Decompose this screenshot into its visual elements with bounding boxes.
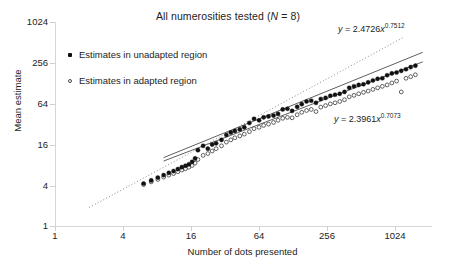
legend-item-adapted: Estimates in adapted region [68,75,197,86]
legend-label-unadapted: Estimates in unadapted region [79,49,207,60]
filled-square-marker-icon [68,53,72,57]
open-circle-marker-icon [68,79,72,83]
plot-canvas [0,0,456,276]
eq-unadapted-exponent: 0.7512 [385,22,405,29]
equation-adapted: y = 2.3961x0.7073 [334,112,401,124]
eq-adapted-exponent: 0.7073 [381,112,401,119]
chart-figure: All numerosities tested (N = 8) Mean est… [0,0,456,276]
legend-item-unadapted: Estimates in unadapted region [68,49,207,60]
data-points-adapted [142,73,418,187]
eq-unadapted-coefficient: 2.4726 [353,24,381,34]
legend-label-adapted: Estimates in adapted region [79,75,197,86]
equation-unadapted: y = 2.4726x0.7512 [338,22,405,34]
eq-adapted-coefficient: 2.3961 [349,114,377,124]
fit-line-unadapted [164,52,423,157]
